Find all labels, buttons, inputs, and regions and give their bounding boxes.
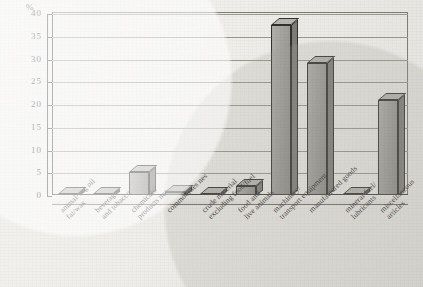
bar xyxy=(378,93,405,196)
y-axis-tick-label: 0 xyxy=(20,190,42,200)
y-axis-tick-label: 10 xyxy=(20,145,42,155)
bar-front-face xyxy=(378,100,398,196)
y-axis-tick-label: 15 xyxy=(20,122,42,132)
bar-chart: % 4035302520151050 animal/veg oilfat/wax… xyxy=(0,0,423,287)
bar xyxy=(271,18,298,196)
y-axis-tick-label: 5 xyxy=(20,167,42,177)
bar-side-face xyxy=(327,57,334,196)
y-axis-tick-label: 25 xyxy=(20,76,42,86)
y-axis-tick-label: 20 xyxy=(20,99,42,109)
bar-side-face xyxy=(291,19,298,196)
y-axis-tick-label: 35 xyxy=(20,31,42,41)
y-axis-tick-label: 30 xyxy=(20,54,42,64)
y-axis-tick-label: 40 xyxy=(20,8,42,18)
bar-front-face xyxy=(271,25,291,196)
bar-side-face xyxy=(398,95,405,196)
plot-top-border xyxy=(52,12,408,13)
